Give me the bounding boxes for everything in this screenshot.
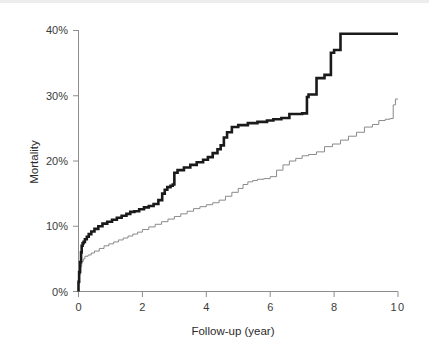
x-tick-label-8: 8: [331, 301, 337, 313]
bold-curve-path: [79, 34, 399, 292]
y-axis-title: Mortality: [28, 140, 40, 184]
x-tick-label-4: 4: [203, 301, 209, 313]
mortality-follow-up-chart: 40% 30% 20% 10% 0% 0 2 4 6 8 10 Follow-u…: [0, 0, 429, 347]
x-tick-label-10: 10: [390, 301, 405, 313]
x-axis-title: Follow-up (year): [191, 325, 274, 337]
x-tick-label-6: 6: [267, 301, 273, 313]
figure-container: 40% 30% 20% 10% 0% 0 2 4 6 8 10 Follow-u…: [0, 0, 429, 347]
y-tick-label-30: 30%: [46, 90, 68, 102]
x-axis-ticks: [79, 292, 399, 298]
page-edge-artifact: [0, 0, 429, 3]
y-tick-label-10: 10%: [46, 220, 68, 232]
y-tick-label-0: 0%: [52, 286, 68, 298]
y-tick-label-40: 40%: [46, 24, 68, 36]
y-tick-label-20: 20%: [46, 155, 68, 167]
y-axis-ticks: [73, 31, 79, 292]
x-tick-label-0: 0: [75, 301, 81, 313]
x-tick-label-2: 2: [139, 301, 145, 313]
